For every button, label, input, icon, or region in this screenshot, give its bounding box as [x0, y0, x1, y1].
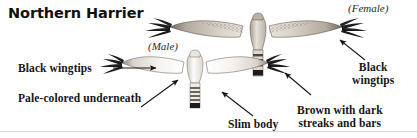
callout-black-wingtips-right-line1: Black: [352, 61, 394, 74]
female-harrier-illustration: [145, 13, 367, 76]
callout-slim-body: Slim body: [228, 118, 278, 131]
arrow-black-wingtips-right: [340, 40, 365, 60]
callout-brown-with-dark-streaks-and-bars: Brown with dark streaks and bars: [297, 104, 383, 129]
callout-black-wingtips-right-line2: wingtips: [352, 74, 394, 87]
arrow-pale-underneath: [141, 80, 178, 107]
page-title: Northern Harrier: [8, 5, 143, 21]
bottom-divider: [0, 131, 417, 132]
sex-label-male: (Male): [148, 40, 178, 52]
arrow-slim-body: [222, 92, 253, 116]
callout-pale-colored-underneath: Pale-colored underneath: [18, 92, 141, 105]
callout-brown-streaks-line1: Brown with dark: [297, 104, 383, 117]
arrow-brown-streaks: [285, 73, 311, 95]
field-guide-illustration-page: Northern Harrier (Male) (Female) Black w…: [0, 0, 417, 138]
callout-black-wingtips-right: Black wingtips: [352, 61, 394, 86]
sex-label-female: (Female): [348, 2, 388, 14]
callout-black-wingtips-left: Black wingtips: [18, 62, 92, 75]
callout-brown-streaks-line2: streaks and bars: [297, 117, 383, 130]
